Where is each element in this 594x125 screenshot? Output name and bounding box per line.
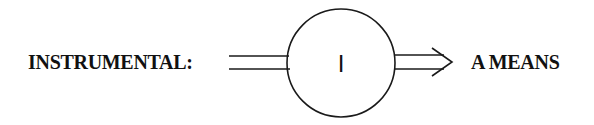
- arrowhead-icon: [432, 48, 452, 76]
- node-label: I: [338, 50, 345, 77]
- a-means-label: A MEANS: [471, 51, 559, 74]
